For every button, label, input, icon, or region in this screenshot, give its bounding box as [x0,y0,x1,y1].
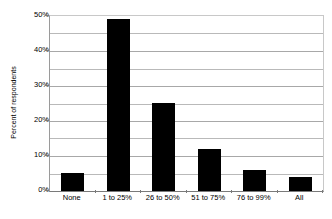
x-tick-mark [186,190,187,193]
bar-chart: Percent of respondents 0%10%20%30%40%50%… [0,0,332,219]
x-tick-label: None [49,193,95,203]
x-tick-mark [322,190,323,193]
y-tick-label: 30% [7,81,49,89]
bar-series [50,16,323,191]
x-tick-mark [231,190,232,193]
x-tick-label: 1 to 25% [95,193,141,203]
y-tick-label: 20% [7,116,49,124]
y-axis: 0%10%20%30%40%50% [0,0,49,219]
x-tick-label: 26 to 50% [140,193,186,203]
x-tick-label: All [277,193,323,203]
bar [107,19,130,191]
y-tick-label: 40% [7,46,49,54]
bar [198,149,221,191]
y-tick-label: 50% [7,11,49,19]
bar [243,170,266,191]
bar [289,177,312,191]
y-tick-label: 0% [7,186,49,194]
x-tick-mark [277,190,278,193]
x-tick-label: 51 to 75% [186,193,232,203]
bar [152,103,175,191]
bar [61,173,84,191]
x-axis: None1 to 25%26 to 50%51 to 75%76 to 99%A… [49,193,322,209]
x-tick-mark [95,190,96,193]
x-tick-label: 76 to 99% [231,193,277,203]
x-tick-mark [140,190,141,193]
y-tick-label: 10% [7,151,49,159]
plot-area [49,15,324,192]
